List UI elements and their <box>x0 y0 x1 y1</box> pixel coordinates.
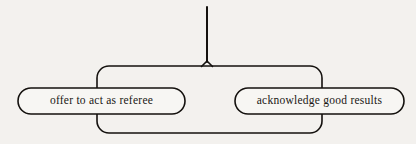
diagram-canvas: offer to act as referee acknowledge good… <box>0 0 416 144</box>
diagram-svg: offer to act as referee acknowledge good… <box>0 0 416 144</box>
node-offer-referee-label: offer to act as referee <box>50 94 153 106</box>
node-acknowledge-results-label: acknowledge good results <box>257 94 383 107</box>
